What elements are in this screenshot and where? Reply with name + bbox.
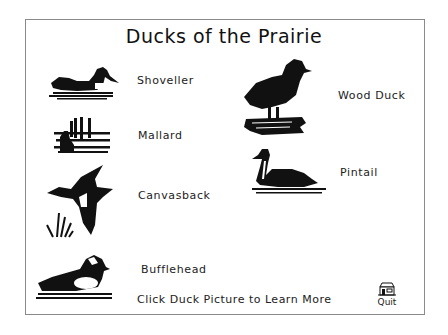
quit-label: Quit — [374, 297, 400, 307]
instruction-text: Click Duck Picture to Learn More — [137, 293, 331, 306]
bufflehead-icon — [36, 253, 114, 301]
pintail-duck-picture[interactable] — [248, 147, 330, 197]
bufflehead-duck-picture[interactable] — [36, 253, 114, 301]
house-icon — [378, 282, 396, 296]
mallard-label[interactable]: Mallard — [138, 129, 183, 142]
quit-button[interactable]: Quit — [374, 282, 400, 312]
canvasback-label[interactable]: Canvasback — [138, 189, 211, 202]
wood-duck-picture[interactable] — [242, 57, 315, 137]
canvasback-duck-picture[interactable] — [43, 163, 118, 241]
pintail-label[interactable]: Pintail — [340, 166, 378, 179]
page-title: Ducks of the Prairie — [0, 25, 448, 47]
canvasback-icon — [43, 163, 118, 241]
pintail-icon — [248, 147, 330, 197]
wood-duck-icon — [242, 57, 315, 137]
mallard-icon — [52, 115, 112, 155]
wood-duck-label[interactable]: Wood Duck — [338, 89, 405, 102]
bufflehead-label[interactable]: Bufflehead — [141, 263, 207, 276]
shoveller-label[interactable]: Shoveller — [137, 74, 194, 87]
mallard-duck-picture[interactable] — [52, 115, 112, 155]
shoveller-duck-picture[interactable] — [47, 63, 122, 103]
shoveller-icon — [47, 63, 122, 103]
